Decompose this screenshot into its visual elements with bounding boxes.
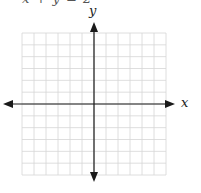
y-axis-up-arrow-icon (90, 22, 98, 32)
x-axis-left-arrow-icon (3, 100, 13, 108)
x-axis-right-arrow-icon (165, 100, 175, 108)
axes (8, 27, 170, 177)
y-axis-label: y (89, 3, 96, 18)
y-axis-down-arrow-icon (90, 172, 98, 182)
coordinate-plane (0, 0, 201, 193)
x-axis-label: x (181, 95, 188, 110)
